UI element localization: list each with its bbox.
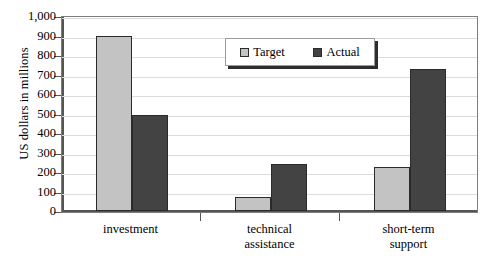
legend-item-actual: Actual xyxy=(313,45,359,60)
gridline xyxy=(62,18,477,19)
y-axis-tick-label: 100 xyxy=(0,186,56,199)
y-axis-tick-label: 900 xyxy=(0,30,56,43)
bar-actual-2 xyxy=(410,69,446,211)
legend-swatch-target-icon xyxy=(240,48,249,57)
legend-label-actual: Actual xyxy=(326,45,359,60)
category-separator-tick xyxy=(200,213,201,221)
y-axis-title: US dollars in millions xyxy=(17,24,32,184)
y-axis-tick-label: 400 xyxy=(0,127,56,140)
y-axis-tick-label: 800 xyxy=(0,49,56,62)
y-axis-tick-label: 300 xyxy=(0,147,56,160)
bar-target-0 xyxy=(96,36,132,212)
category-separator-tick xyxy=(339,213,340,221)
legend-label-target: Target xyxy=(253,45,285,60)
x-axis-category-label: short-term support xyxy=(339,222,478,252)
y-axis-tick-label: 200 xyxy=(0,166,56,179)
y-axis-tick-label: 500 xyxy=(0,108,56,121)
y-axis-tick-label: 1,000 xyxy=(0,10,56,23)
bar-target-2 xyxy=(374,167,410,211)
y-axis-tick-label: 0 xyxy=(0,205,56,218)
bar-target-1 xyxy=(235,197,271,211)
bar-actual-1 xyxy=(271,164,307,211)
chart-legend: Target Actual xyxy=(225,38,375,66)
y-axis-line xyxy=(62,17,64,212)
chart-container: US dollars in millions 01002003004005006… xyxy=(0,0,489,269)
y-axis-tick-label: 700 xyxy=(0,69,56,82)
x-axis-category-label: technical assistance xyxy=(200,222,339,252)
legend-swatch-actual-icon xyxy=(313,48,322,57)
y-axis-tick-label: 600 xyxy=(0,88,56,101)
legend-item-target: Target xyxy=(240,45,285,60)
bar-actual-0 xyxy=(132,115,168,211)
x-axis-category-label: investment xyxy=(61,222,200,237)
